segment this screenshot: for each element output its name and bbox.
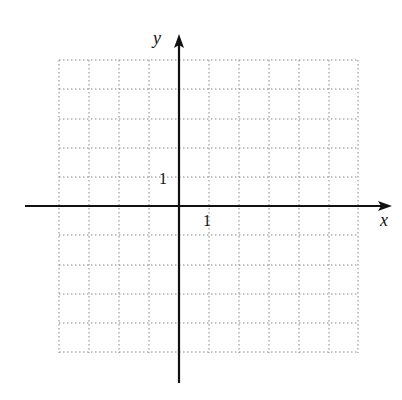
y-axis	[174, 34, 184, 383]
x-tick-label: 1	[203, 212, 211, 229]
coordinate-plane: y x 1 1	[0, 0, 402, 400]
y-tick-label: 1	[159, 170, 167, 187]
x-axis	[25, 201, 392, 211]
y-axis-label: y	[151, 28, 161, 48]
x-axis-label: x	[379, 210, 388, 230]
